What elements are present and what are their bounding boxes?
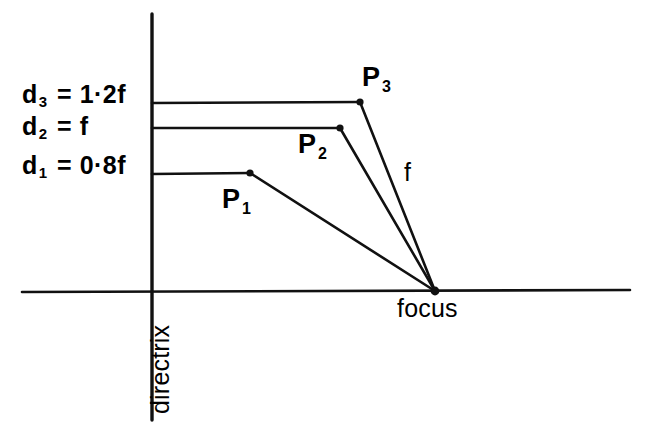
focal-segment-p2: [340, 128, 435, 291]
d2-subscript: 2: [38, 125, 50, 142]
d3-subscript: 3: [38, 93, 50, 110]
d3-value: 1·2f: [80, 80, 126, 108]
p3-subscript: 3: [380, 78, 391, 95]
axis-line: [22, 290, 630, 292]
diagram-canvas: d3 = 1·2f d2 = f d1 = 0·8f P3 P2 P1 f fo…: [0, 0, 652, 437]
d1-equals: =: [57, 151, 72, 179]
d1-symbol: d: [22, 151, 38, 179]
parabola-focus-directrix-figure: [0, 0, 652, 437]
d3-equals: =: [57, 80, 72, 108]
focal-distance-label: f: [404, 160, 411, 185]
d1-subscript: 1: [38, 164, 50, 181]
point-p2-marker: [336, 124, 343, 131]
p2-symbol: P: [298, 129, 316, 159]
point-p3-marker: [356, 98, 363, 105]
d1-value: 0·8f: [80, 151, 126, 179]
distance-label-d2: d2 = f: [22, 114, 88, 141]
p1-subscript: 1: [240, 200, 251, 217]
point-label-p3: P3: [362, 64, 391, 95]
distance-label-d3: d3 = 1·2f: [22, 82, 126, 109]
directrix-label: directrix: [148, 325, 173, 414]
d3-symbol: d: [22, 80, 38, 108]
d2-value: f: [80, 112, 89, 140]
p1-symbol: P: [222, 184, 240, 214]
distance-label-d1: d1 = 0·8f: [22, 153, 126, 180]
d2-equals: =: [57, 112, 72, 140]
p3-symbol: P: [362, 62, 380, 92]
point-label-p2: P2: [298, 131, 327, 162]
p2-subscript: 2: [316, 145, 327, 162]
point-label-p1: P1: [222, 186, 251, 217]
focal-segment-p3: [360, 102, 435, 291]
focus-label: focus: [397, 296, 458, 321]
d2-symbol: d: [22, 112, 38, 140]
segment-d3: [152, 102, 360, 103]
segment-d1: [152, 173, 250, 174]
point-p1-marker: [246, 169, 253, 176]
focal-segment-p1: [250, 173, 435, 291]
